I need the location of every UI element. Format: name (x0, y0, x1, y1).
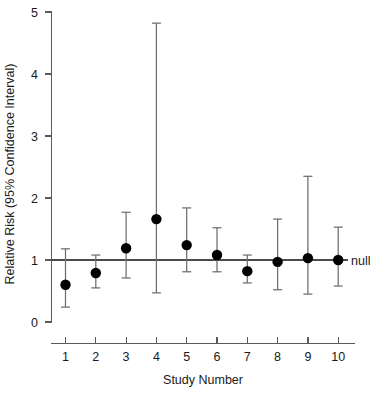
estimate-marker-study-5 (182, 240, 192, 250)
estimate-marker-study-2 (91, 268, 101, 278)
data-point-group-study-10 (333, 227, 343, 286)
x-axis-title: Study Number (163, 373, 243, 387)
x-axis-ticks: 12345678910 (62, 337, 345, 364)
x-tick-label-4: 4 (153, 350, 160, 364)
x-tick-label-6: 6 (214, 350, 221, 364)
data-series-group (60, 23, 343, 307)
data-point-group-study-3 (121, 212, 131, 278)
estimate-marker-study-1 (60, 280, 70, 290)
estimate-marker-study-10 (333, 255, 343, 265)
x-tick-label-3: 3 (123, 350, 130, 364)
y-tick-label-1: 1 (31, 254, 38, 268)
x-tick-label-2: 2 (92, 350, 99, 364)
y-tick-label-4: 4 (31, 68, 38, 82)
null-label: null (351, 254, 370, 268)
x-tick-label-5: 5 (183, 350, 190, 364)
data-point-group-study-4 (151, 23, 161, 293)
estimate-marker-study-9 (303, 253, 313, 263)
forest-plot-svg: 012345 12345678910 null Relative Risk (9… (0, 0, 381, 399)
y-tick-label-0: 0 (31, 316, 38, 330)
estimate-marker-study-6 (212, 250, 222, 260)
data-point-group-study-6 (212, 228, 222, 272)
x-tick-label-9: 9 (304, 350, 311, 364)
forest-plot-figure: 012345 12345678910 null Relative Risk (9… (0, 0, 381, 399)
data-point-group-study-8 (272, 219, 282, 290)
y-tick-label-2: 2 (31, 192, 38, 206)
x-tick-label-8: 8 (274, 350, 281, 364)
x-tick-label-7: 7 (244, 350, 251, 364)
y-tick-label-3: 3 (31, 130, 38, 144)
x-tick-label-10: 10 (331, 350, 345, 364)
estimate-marker-study-3 (121, 243, 131, 253)
data-point-group-study-9 (303, 176, 313, 294)
estimate-marker-study-7 (242, 266, 252, 276)
x-tick-label-1: 1 (62, 350, 69, 364)
y-axis-ticks: 012345 (31, 6, 51, 330)
y-tick-label-5: 5 (31, 6, 38, 20)
data-point-group-study-5 (182, 208, 192, 272)
data-point-group-study-1 (60, 249, 70, 307)
estimate-marker-study-8 (272, 257, 282, 267)
data-point-group-study-7 (242, 255, 252, 283)
y-axis-title: Relative Risk (95% Confidence Interval) (3, 64, 17, 285)
estimate-marker-study-4 (151, 214, 161, 224)
